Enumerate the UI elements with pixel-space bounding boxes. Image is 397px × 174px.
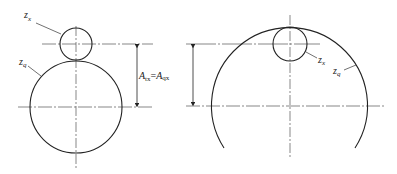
right-large-internal-gear-arc <box>211 28 367 148</box>
left-external-mesh: zx zq Atx=Aqx <box>18 9 170 168</box>
right-small-gear-label: zx <box>317 54 326 67</box>
left-large-leader <box>28 66 41 76</box>
right-small-leader <box>306 52 317 58</box>
left-small-gear-label: zx <box>23 9 32 23</box>
left-large-gear-label: zq <box>18 56 27 69</box>
right-internal-mesh: zx zq <box>186 15 385 157</box>
gear-mesh-diagram: zx zq Atx=Aqx zx zq <box>0 0 397 174</box>
right-large-gear-label: zq <box>332 65 341 78</box>
right-large-leader <box>344 65 356 70</box>
left-small-leader <box>36 23 61 34</box>
center-distance-label: Atx=Aqx <box>138 70 170 83</box>
